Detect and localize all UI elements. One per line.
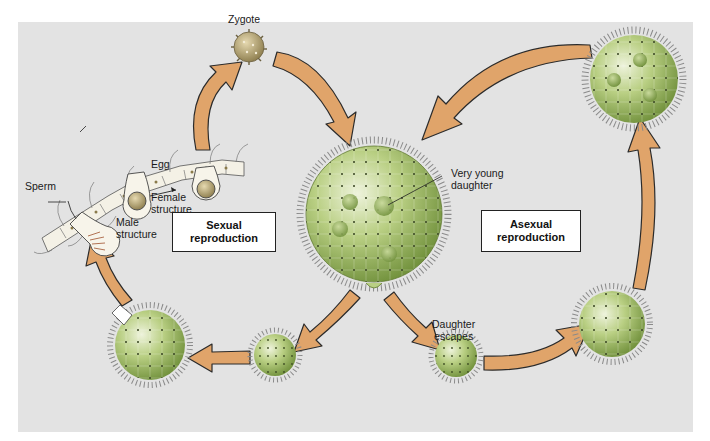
asexual-growing-colony [574, 286, 650, 362]
zygote-cell [231, 29, 267, 65]
female-structure-egg [123, 172, 151, 219]
arrow-growing-to-mature [628, 118, 660, 290]
daughter-colony [342, 194, 358, 210]
daughter-colony [643, 88, 657, 102]
daughter-colony [374, 196, 394, 216]
label-male-structure: Male structure [116, 216, 157, 240]
label-egg: Egg [151, 158, 170, 170]
arrow-small-to-mature [188, 344, 250, 372]
parent-colony [300, 140, 448, 288]
sexual-small-colony [250, 330, 300, 380]
sexual-reproduction-box: Sexual reproduction [172, 212, 276, 252]
daughter-colony [332, 221, 348, 237]
daughter-colony [633, 53, 647, 67]
arrow-zygote-to-parent [273, 52, 356, 146]
asexual-mature-colony [585, 30, 683, 128]
sperm-cell [68, 201, 76, 219]
female-structure-zygote [192, 166, 220, 200]
label-daughter-escapes: Daughter escapes [432, 318, 475, 342]
label-zygote: Zygote [228, 13, 260, 25]
volvox-life-cycle-art [0, 0, 710, 441]
sexual-mature-colony [110, 305, 190, 385]
daughter-colony [607, 73, 621, 87]
arrow-asexual-to-parent [422, 45, 592, 140]
label-sperm: Sperm [25, 180, 56, 192]
daughter-colony [381, 246, 397, 262]
label-very-young-daughter: Very young daughter [451, 167, 504, 191]
arrow-parent-to-sexual [294, 290, 360, 352]
arrow-filament-to-zygote [194, 62, 243, 150]
asexual-reproduction-box: Asexual reproduction [481, 210, 581, 252]
